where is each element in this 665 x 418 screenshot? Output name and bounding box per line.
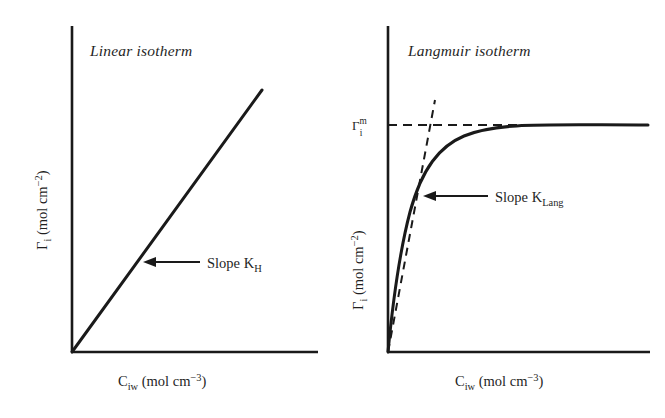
gamma-max-sub: i (360, 128, 363, 138)
slope-klang-label-sub: Lang (542, 197, 564, 208)
annotation-slope-klang: Slope KLang (423, 189, 564, 208)
x-axis-label-units-close: ) (539, 373, 544, 390)
gamma-max-sup: m (360, 116, 368, 126)
slope-kh-label: Slope KH (207, 255, 262, 274)
x-axis-label-symbol: C (455, 373, 465, 389)
series-linear-isotherm (72, 90, 262, 352)
y-axis-label: Γi (mol cm−2) (349, 230, 369, 310)
plot-title: Linear isotherm (89, 42, 192, 59)
y-axis-label: Γi (mol cm−2) (33, 170, 53, 250)
x-axis-label: Ciw (mol cm−3) (118, 372, 207, 392)
slope-klang-label: Slope KLang (495, 189, 564, 208)
x-axis-label-units-close: ) (202, 373, 207, 390)
y-axis-label-units-exp: −2 (33, 175, 44, 186)
x-axis-label: Ciw (mol cm−3) (455, 372, 544, 392)
figure-adsorption-isotherms: Linear isotherm Slope KH Γi (mol cm−2) C… (0, 0, 665, 418)
x-axis-label-units-open: (mol cm (138, 373, 191, 390)
series-langmuir-isotherm (388, 125, 648, 352)
slope-klang-arrow-head (423, 191, 436, 201)
y-axis-label-units-exp: −2 (349, 235, 360, 246)
slope-klang-label-base: Slope K (495, 189, 543, 205)
x-axis-label-symbol-sub: iw (465, 381, 476, 392)
x-axis-label-units-exp: −3 (190, 372, 201, 383)
slope-kh-label-base: Slope K (207, 255, 255, 271)
x-axis-label-symbol: C (118, 373, 128, 389)
x-axis-label-units-exp: −3 (527, 372, 538, 383)
y-axis-label-units-open: (mol cm (350, 246, 367, 299)
plot-title: Langmuir isotherm (407, 42, 531, 59)
slope-kh-arrow-head (143, 257, 156, 267)
slope-kh-label-sub: H (254, 263, 262, 274)
langmuir-isotherm-plot: Langmuir isotherm Γmi Slope KLang Γi (mo… (330, 0, 665, 418)
y-axis-label-units-close: ) (350, 230, 367, 235)
series-initial-slope-tangent (388, 100, 435, 352)
linear-isotherm-plot: Linear isotherm Slope KH Γi (mol cm−2) C… (0, 0, 335, 418)
x-axis-label-units-open: (mol cm (475, 373, 528, 390)
panel-langmuir-isotherm: Langmuir isotherm Γmi Slope KLang Γi (mo… (330, 0, 665, 418)
y-axis-label-symbol: Γ (34, 242, 50, 250)
x-axis-label-symbol-sub: iw (128, 381, 139, 392)
y-axis-label-units-close: ) (34, 170, 51, 175)
y-axis-label-units-open: (mol cm (34, 186, 51, 239)
panel-linear-isotherm: Linear isotherm Slope KH Γi (mol cm−2) C… (0, 0, 335, 418)
gamma-max-label: Γmi (352, 116, 368, 138)
annotation-slope-kh: Slope KH (143, 255, 262, 274)
y-axis-label-symbol: Γ (350, 302, 366, 310)
